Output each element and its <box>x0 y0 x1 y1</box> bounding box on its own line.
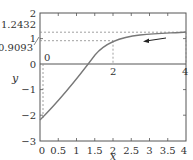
svg-text:1: 1 <box>73 145 79 156</box>
svg-text:0: 0 <box>30 59 36 70</box>
svg-text:0.9093: 0.9093 <box>0 42 33 53</box>
point-label-0: 0 <box>44 52 50 63</box>
chart: 2 1 0 −1 −2 −3 1.2432 0.9093 0 0.5 1 1.5… <box>0 0 193 160</box>
point-label-4: 4 <box>182 66 188 77</box>
svg-text:0: 0 <box>39 145 45 156</box>
svg-text:−3: −3 <box>21 136 36 147</box>
svg-text:3: 3 <box>146 145 152 156</box>
y-axis-label: y <box>11 72 19 85</box>
svg-text:2.5: 2.5 <box>123 145 139 156</box>
point-label-2: 2 <box>110 66 116 77</box>
svg-text:3.5: 3.5 <box>160 145 176 156</box>
svg-text:−2: −2 <box>21 110 36 121</box>
svg-text:4: 4 <box>181 145 187 156</box>
svg-text:1.5: 1.5 <box>87 145 103 156</box>
svg-text:0.5: 0.5 <box>50 145 66 156</box>
svg-text:−1: −1 <box>21 84 36 95</box>
x-axis-label: x <box>110 150 117 160</box>
svg-text:1.2432: 1.2432 <box>1 19 36 30</box>
svg-text:2: 2 <box>30 8 36 19</box>
direction-arrow <box>143 38 166 43</box>
